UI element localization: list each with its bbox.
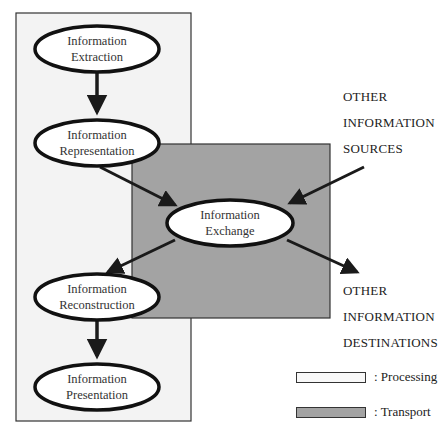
svg-text:Extraction: Extraction [71, 50, 124, 64]
destinations-line-1: OTHER [343, 278, 438, 304]
node-information-extraction: Information Extraction [35, 26, 159, 72]
legend-transport-label: : Transport [374, 404, 431, 420]
sources-line-2: INFORMATION [343, 110, 435, 136]
svg-text:Reconstruction: Reconstruction [59, 298, 135, 312]
legend-processing: : Processing [296, 369, 437, 385]
svg-text:Information: Information [67, 282, 127, 296]
sources-line-1: OTHER [343, 84, 435, 110]
node-information-representation: Information Representation [35, 120, 159, 166]
svg-text:Information: Information [67, 34, 127, 48]
legend-transport: : Transport [296, 404, 431, 420]
destinations-line-3: DESTINATIONS [343, 330, 438, 356]
transport-swatch [296, 407, 366, 418]
processing-swatch [296, 372, 366, 383]
svg-text:Information: Information [67, 372, 127, 386]
svg-text:Information: Information [200, 208, 260, 222]
svg-text:Exchange: Exchange [205, 224, 255, 238]
svg-text:Presentation: Presentation [66, 388, 129, 402]
other-information-sources-label: OTHER INFORMATION SOURCES [343, 84, 435, 162]
svg-text:Representation: Representation [60, 144, 136, 158]
other-information-destinations-label: OTHER INFORMATION DESTINATIONS [343, 278, 438, 356]
node-information-exchange: Information Exchange [167, 200, 293, 246]
svg-text:Information: Information [67, 128, 127, 142]
node-information-reconstruction: Information Reconstruction [35, 274, 159, 320]
sources-line-3: SOURCES [343, 136, 435, 162]
node-information-presentation: Information Presentation [35, 364, 159, 410]
legend-processing-label: : Processing [374, 369, 437, 385]
destinations-line-2: INFORMATION [343, 304, 438, 330]
